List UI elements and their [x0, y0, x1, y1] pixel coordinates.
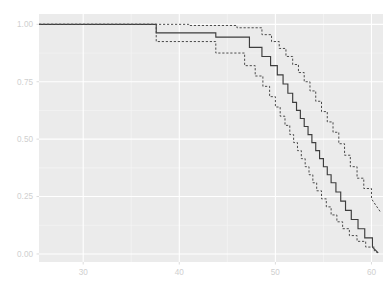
y-tick-label: 0.25 [17, 192, 33, 201]
survival-plot: 0.000.250.500.751.00 30405060 [0, 0, 390, 294]
x-tick-label: 50 [271, 268, 281, 277]
x-tick-label: 60 [367, 268, 377, 277]
x-tick-label: 40 [175, 268, 185, 277]
y-axis: 0.000.250.500.751.00 [17, 20, 39, 259]
y-tick-label: 1.00 [17, 20, 33, 29]
y-tick-label: 0.50 [17, 135, 33, 144]
plot-canvas: 0.000.250.500.751.00 30405060 [0, 0, 390, 294]
panel-background [39, 14, 383, 262]
x-tick-label: 30 [79, 268, 89, 277]
y-tick-label: 0.00 [17, 250, 33, 259]
y-tick-label: 0.75 [17, 78, 33, 87]
x-axis: 30405060 [79, 262, 377, 277]
